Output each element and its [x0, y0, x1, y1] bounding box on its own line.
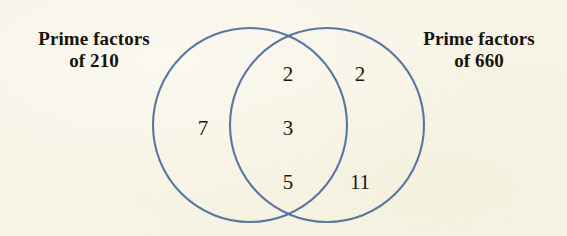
region-value-left-only: 7: [183, 118, 223, 139]
set-label-left-line-2: of 210: [14, 50, 174, 72]
set-label-right-line-2: of 660: [399, 50, 559, 72]
set-label-right: Prime factors of 660: [399, 28, 559, 72]
region-value-intersection: 5: [268, 172, 308, 193]
set-label-left-line-1: Prime factors: [14, 28, 174, 50]
region-value-right-only: 2: [340, 64, 380, 85]
venn-circle-right: [230, 28, 424, 222]
region-value-intersection: 3: [268, 118, 308, 139]
set-label-left: Prime factors of 210: [14, 28, 174, 72]
region-value-right-only: 11: [340, 172, 380, 193]
region-value-intersection: 2: [268, 64, 308, 85]
set-label-right-line-1: Prime factors: [399, 28, 559, 50]
venn-diagram-figure: Prime factors of 210 Prime factors of 66…: [0, 0, 567, 236]
